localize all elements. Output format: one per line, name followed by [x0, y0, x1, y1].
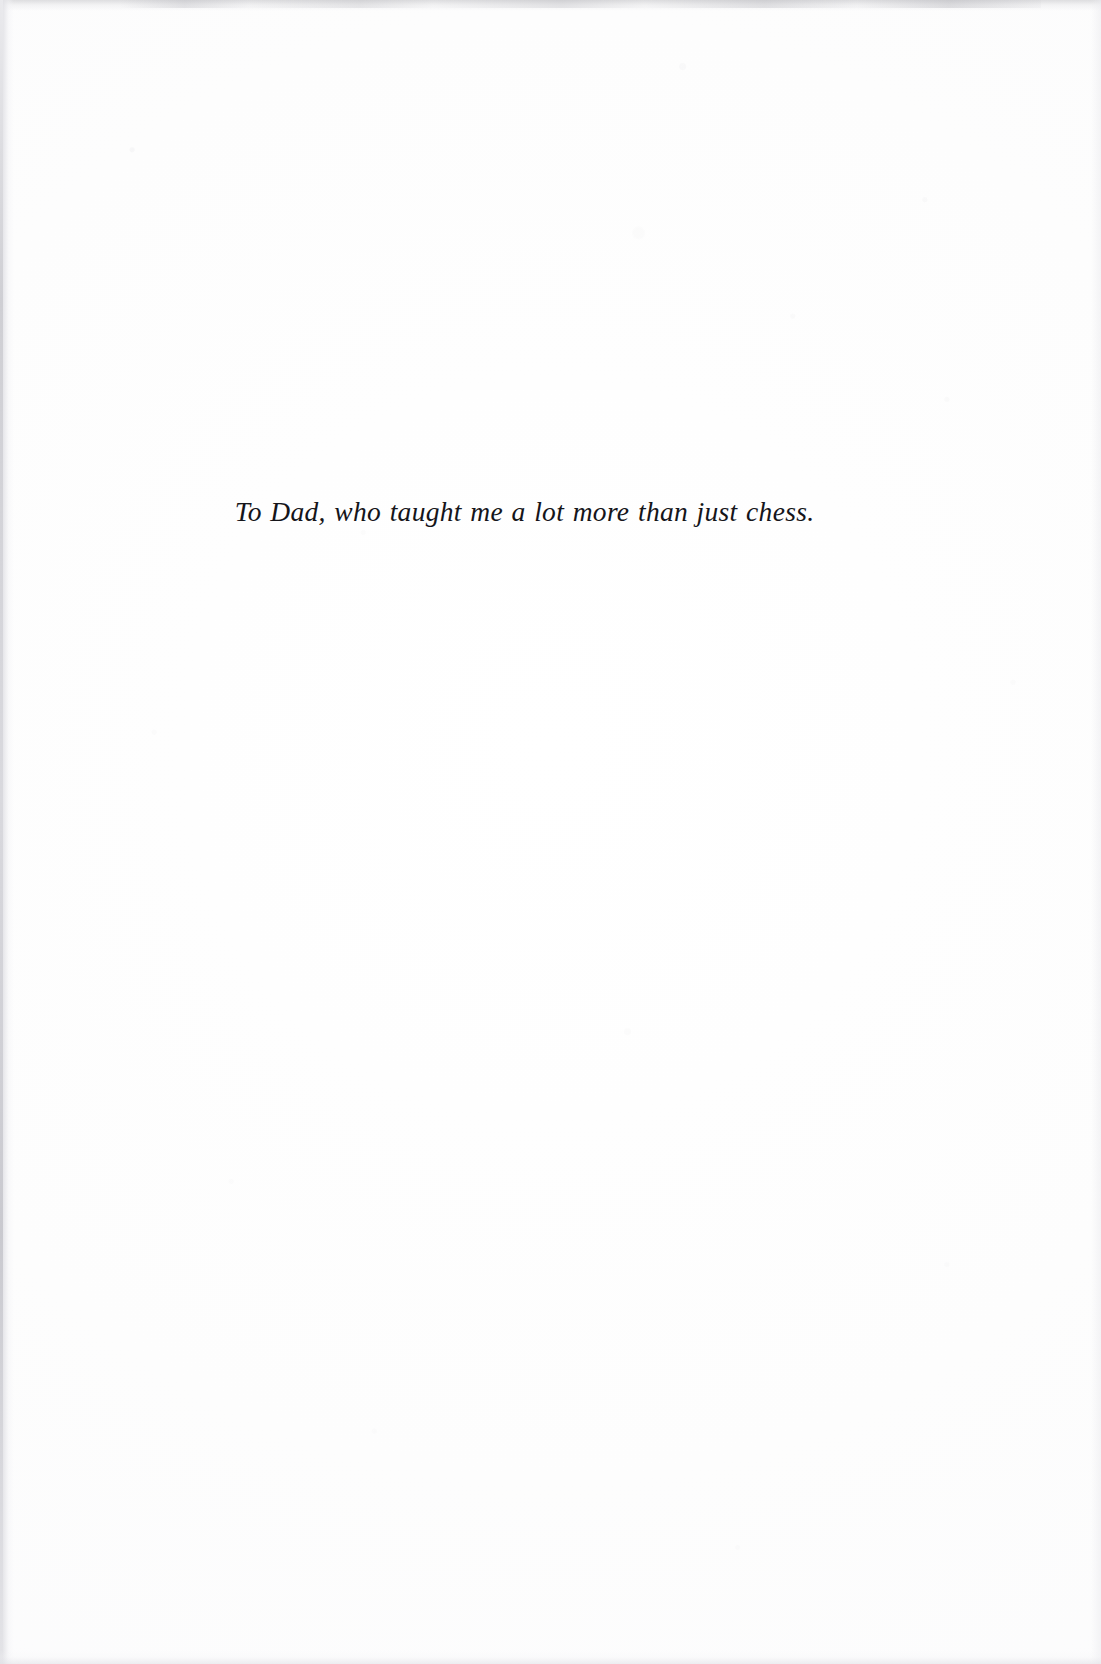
dedication-block: To Dad, who taught me a lot more than ju…: [0, 495, 1101, 529]
scan-noise-texture: [0, 0, 1101, 1664]
left-edge-gutter-band: [0, 0, 14, 1664]
left-edge-inner-line: [0, 0, 3, 1664]
top-edge-scan-band: [0, 0, 1101, 11]
dedication-text: To Dad, who taught me a lot more than ju…: [235, 495, 815, 529]
bottom-edge-scan-band: [0, 1650, 1101, 1664]
dedication-page: To Dad, who taught me a lot more than ju…: [0, 0, 1101, 1664]
top-edge-smudge: [120, 0, 1041, 8]
paper-tint: [0, 0, 1101, 1664]
right-edge-scan-band: [1091, 0, 1101, 1664]
